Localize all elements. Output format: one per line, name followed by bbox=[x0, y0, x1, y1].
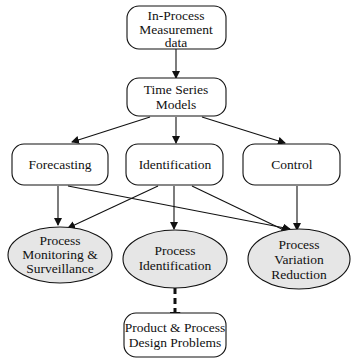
edge-tsmodels-forecasting bbox=[72, 117, 150, 142]
node-monitoring: ProcessMonitoring &Surveillance bbox=[8, 227, 112, 283]
node-control: Control bbox=[243, 144, 340, 185]
svg-text:Forecasting: Forecasting bbox=[29, 157, 92, 172]
diagram-canvas: In-ProcessMeasurementdata Time SeriesMod… bbox=[0, 0, 354, 364]
node-identification: Identification bbox=[126, 144, 223, 185]
node-measurement: In-ProcessMeasurementdata bbox=[127, 6, 226, 50]
svg-text:Product & ProcessDesign Proble: Product & ProcessDesign Problems bbox=[125, 320, 226, 350]
edge-tsmodels-control bbox=[202, 117, 285, 143]
edge-identification-monitoring bbox=[68, 186, 158, 228]
node-procident: ProcessIdentification bbox=[123, 230, 227, 288]
node-variation: ProcessVariationReduction bbox=[248, 229, 350, 289]
edge-identification-variation bbox=[192, 186, 288, 232]
svg-text:Control: Control bbox=[271, 157, 313, 172]
svg-text:ProcessVariationReduction: ProcessVariationReduction bbox=[271, 237, 327, 282]
edge-forecasting-variation bbox=[68, 186, 290, 229]
node-design: Product & ProcessDesign Problems bbox=[124, 313, 226, 357]
svg-text:Identification: Identification bbox=[139, 157, 212, 172]
node-forecasting: Forecasting bbox=[12, 144, 108, 185]
node-tsmodels: Time SeriesModels bbox=[127, 78, 226, 116]
